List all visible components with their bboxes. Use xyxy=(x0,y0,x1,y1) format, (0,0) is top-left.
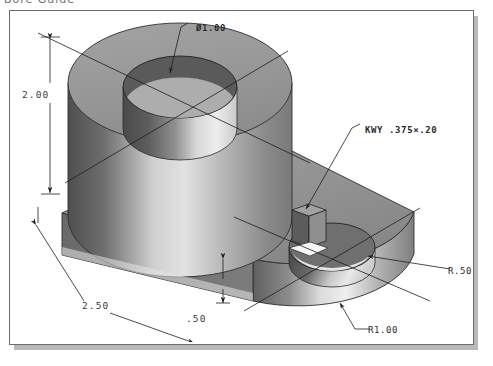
dimension-height-2-00: 2.00 xyxy=(22,89,49,100)
dim-2-50-line-b xyxy=(110,313,194,342)
annotation-radius-r100: R1.00 xyxy=(368,325,398,335)
dimension-length-2-50: 2.50 xyxy=(82,300,109,311)
figure-frame: Ø1.00 KWY .375×.20 R.50 R1.00 2.00 2.50 … xyxy=(9,10,474,345)
leader-kwy-hook xyxy=(352,124,360,128)
clipped-header-text: Bore Guide xyxy=(4,0,75,6)
annotation-diameter-callout: Ø1.00 xyxy=(196,23,226,33)
leader-r100-line xyxy=(340,303,355,329)
clipped-header-strip: Bore Guide xyxy=(0,0,493,7)
technical-drawing-svg xyxy=(10,11,471,342)
dimension-thickness-50: .50 xyxy=(186,313,206,324)
keyway-notch xyxy=(289,204,328,256)
annotation-keyway-callout: KWY .375×.20 xyxy=(365,125,437,135)
annotation-radius-r50: R.50 xyxy=(448,266,472,276)
screenshot-root: Bore Guide xyxy=(0,0,493,366)
part-solid xyxy=(62,23,414,306)
